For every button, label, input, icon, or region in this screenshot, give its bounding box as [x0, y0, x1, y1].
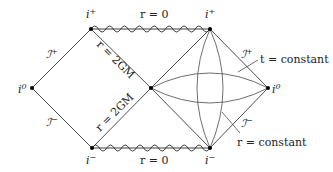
- label-horizon-upper: r = 2GM: [94, 38, 138, 82]
- label-horizon-lower: r = 2GM: [93, 91, 137, 135]
- label-r-constant: r = constant: [237, 136, 307, 149]
- label-t-constant: t = constant: [260, 53, 329, 66]
- r-constant-curve-right: [210, 29, 223, 148]
- t-constant-curve-lower: [151, 88, 268, 103]
- label-scri-minus-right: ℐ−: [241, 116, 253, 130]
- r-constant-leader: [222, 112, 240, 133]
- i-minus-right-dot: [208, 146, 212, 150]
- label-i-plus-left: i+: [86, 7, 96, 21]
- label-scri-plus-right: ℐ+: [241, 47, 253, 61]
- label-i-minus-left: i−: [86, 153, 96, 167]
- i-plus-left-dot: [89, 27, 93, 31]
- horizon-right-lower-line: [151, 88, 210, 148]
- i0-right-dot: [266, 86, 270, 90]
- t-constant-curve-upper: [151, 73, 268, 88]
- i0-left-dot: [30, 86, 34, 90]
- scri-plus-left-edge: [32, 29, 91, 88]
- r-constant-curve-left: [197, 29, 210, 148]
- horizon-right-upper-line: [151, 29, 210, 88]
- label-singularity-bottom: r = 0: [140, 154, 168, 167]
- label-i-plus-right: i+: [205, 7, 215, 21]
- label-scri-plus-left: ℐ+: [46, 47, 58, 61]
- scri-minus-left-edge: [32, 88, 92, 148]
- penrose-diagram: i+ i+ i0 i0 i− i− r = 0 r = 0 r = 2GM r …: [0, 0, 333, 172]
- label-scri-minus-left: ℐ−: [46, 115, 58, 129]
- label-i-minus-right: i−: [205, 153, 215, 167]
- label-i0-left: i0: [18, 82, 27, 96]
- label-singularity-top: r = 0: [140, 8, 168, 21]
- i-minus-left-dot: [90, 146, 94, 150]
- center-bifurcation-dot: [149, 86, 153, 90]
- label-i0-right: i0: [272, 82, 281, 96]
- t-constant-leader: [238, 60, 258, 72]
- i-plus-right-dot: [208, 27, 212, 31]
